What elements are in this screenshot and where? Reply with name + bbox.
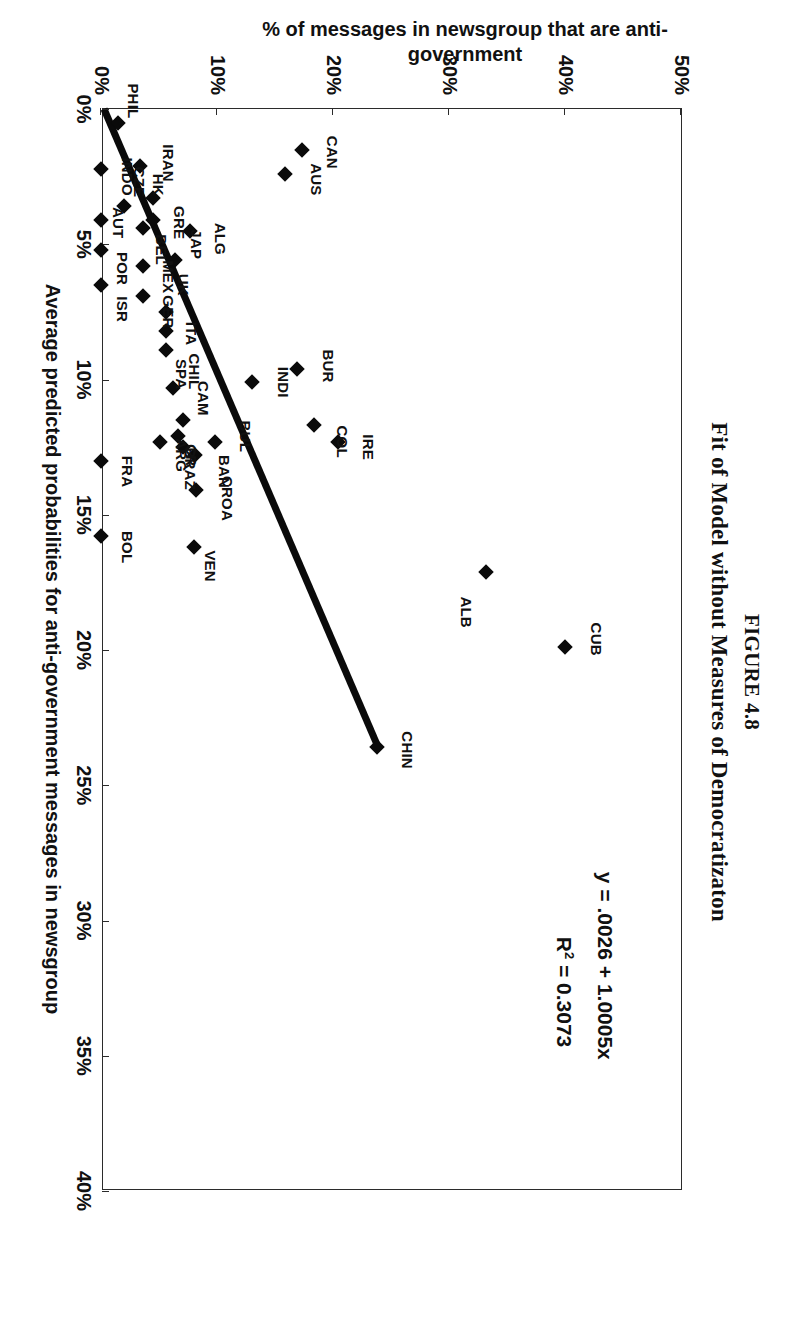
data-point-label: ALB <box>458 596 475 627</box>
y-tick-label: 30% <box>438 55 461 95</box>
data-point-label: SPA <box>173 359 190 389</box>
x-tick-label: 10% <box>72 359 95 399</box>
data-point-label: ITA <box>183 322 200 346</box>
data-point-label: ALG <box>212 223 229 255</box>
data-point-label: BOL <box>118 531 135 563</box>
x-tick-mark <box>102 109 109 110</box>
data-point-label: AUS <box>307 163 324 195</box>
x-tick-mark <box>102 515 109 516</box>
x-tick-label: 5% <box>72 230 95 259</box>
data-point-label: INDO <box>118 157 135 195</box>
data-point-label: CAN <box>323 136 340 169</box>
x-tick-label: 30% <box>72 900 95 940</box>
figure-caption: Fit of Model without Measures of Democra… <box>706 0 732 1344</box>
x-tick-label: 20% <box>72 630 95 670</box>
data-point-label: CUB <box>588 623 605 656</box>
y-tick-mark <box>680 108 681 115</box>
y-tick-label: 10% <box>206 55 229 95</box>
x-tick-mark <box>102 1191 109 1192</box>
r-squared-annotation: R2 = 0.3073 <box>552 937 577 1048</box>
y-axis-title: % of messages in newsgroup that are anti… <box>255 17 675 67</box>
x-tick-label: 40% <box>72 1171 95 1211</box>
x-tick-mark <box>102 380 109 381</box>
data-point-label: CROA <box>219 476 236 521</box>
figure-number: FIGURE 4.8 <box>739 0 764 1344</box>
data-point-label: UK <box>175 274 192 296</box>
data-point-label: ISR <box>113 296 130 322</box>
data-point-label: GER <box>160 295 177 328</box>
data-point-label: JAP <box>188 229 205 259</box>
y-tick-label: 20% <box>322 55 345 95</box>
x-tick-label: 15% <box>72 495 95 535</box>
data-point-label: HK <box>149 174 166 196</box>
data-point-label: INDI <box>275 367 292 398</box>
data-point-label: PHIL <box>125 83 142 118</box>
x-tick-mark <box>102 785 109 786</box>
data-point-label: IRE <box>359 434 376 460</box>
x-tick-label: 35% <box>72 1036 95 1076</box>
y-tick-mark <box>564 108 565 115</box>
y-tick-mark <box>448 108 449 115</box>
data-point-label: MEX <box>160 260 177 293</box>
x-tick-mark <box>102 1056 109 1057</box>
data-point-label: FRA <box>118 456 135 487</box>
data-point-label: ARG <box>173 438 190 472</box>
data-point-label: POR <box>113 252 130 285</box>
data-point-label: AUT <box>110 207 127 238</box>
data-point-label: BUR <box>320 349 337 382</box>
data-point-label: COL <box>334 426 351 458</box>
x-tick-label: 0% <box>72 95 95 124</box>
data-point-label: BUL <box>236 421 253 452</box>
data-point-label: VEN <box>202 550 219 581</box>
x-tick-mark <box>102 650 109 651</box>
y-tick-mark <box>332 108 333 115</box>
y-tick-label: 40% <box>554 55 577 95</box>
data-point-label: GRE <box>170 206 187 239</box>
regression-equation: y = .0026 + 1.0005x <box>593 872 617 1060</box>
figure-canvas: FIGURE 4.8 Fit of Model without Measures… <box>0 0 790 1344</box>
y-tick-label: 50% <box>670 55 693 95</box>
x-tick-label: 25% <box>72 765 95 805</box>
x-tick-mark <box>102 921 109 922</box>
y-tick-mark <box>216 108 217 115</box>
plot-area: 0%5%10%15%20%25%30%35%40% 0%10%20%30%40%… <box>102 108 682 1190</box>
data-point-label: CHIN <box>399 731 416 768</box>
x-axis-title: Average predicted probabilities for anti… <box>41 108 64 1190</box>
y-tick-mark <box>100 108 101 115</box>
y-tick-label: 0% <box>90 66 113 95</box>
